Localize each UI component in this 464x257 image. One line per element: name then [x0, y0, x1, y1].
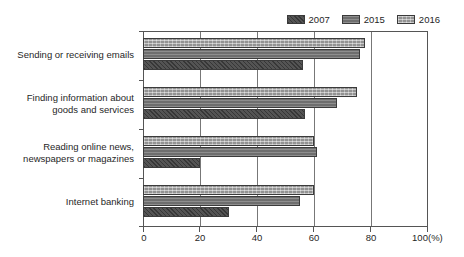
- legend-swatch-icon-2007: [287, 15, 305, 24]
- y-axis-ticks: [139, 31, 144, 227]
- legend-swatch-icon-2016: [397, 15, 415, 24]
- category-label-online-news-line2: newspapers or magazines: [0, 153, 134, 165]
- legend-item-2016: 2016: [397, 15, 440, 25]
- bar-2007-finding-information: [143, 109, 305, 119]
- y-tick-2: [139, 129, 144, 130]
- legend-swatch-icon-2015: [342, 15, 360, 24]
- bar-2016-finding-information: [143, 87, 357, 97]
- x-axis-tick-labels: 0 20 40 60 80 100 (%): [0, 232, 464, 246]
- bar-rows: [143, 31, 428, 227]
- legend-label-2015: 2015: [364, 15, 385, 25]
- x-ticklabel-20: 20: [195, 232, 206, 243]
- bar-2015-finding-information: [143, 98, 337, 108]
- legend-label-2007: 2007: [309, 15, 330, 25]
- x-axis-unit-label: (%): [428, 232, 443, 243]
- category-label-emails-line1: Sending or receiving emails: [0, 49, 134, 61]
- category-axis-labels: Sending or receiving emails Finding info…: [0, 31, 139, 227]
- legend-item-2015: 2015: [342, 15, 385, 25]
- bar-2016-online-news: [143, 136, 314, 146]
- category-label-online-news: Reading online news, newspapers or magaz…: [0, 141, 134, 165]
- bar-chart-figure: 2007 2015 2016: [0, 0, 464, 257]
- x-ticklabel-60: 60: [309, 232, 320, 243]
- category-label-internet-banking: Internet banking: [0, 196, 134, 208]
- x-ticklabel-40: 40: [252, 232, 263, 243]
- bar-2007-online-news: [143, 158, 200, 168]
- bar-2016-emails: [143, 38, 365, 48]
- category-label-finding-information: Finding information about goods and serv…: [0, 92, 134, 116]
- x-ticklabel-0: 0: [141, 232, 146, 243]
- y-tick-3: [139, 178, 144, 179]
- bar-group-finding-information: [143, 80, 428, 129]
- bar-2016-internet-banking: [143, 185, 314, 195]
- category-label-finding-information-line1: Finding information about: [0, 92, 134, 104]
- x-ticklabel-80: 80: [366, 232, 377, 243]
- category-label-internet-banking-line1: Internet banking: [0, 196, 134, 208]
- cut-off-title-strip: [0, 0, 464, 7]
- bar-2015-online-news: [143, 147, 317, 157]
- category-label-online-news-line1: Reading online news,: [0, 141, 134, 153]
- chart-legend: 2007 2015 2016: [287, 15, 440, 25]
- x-ticklabel-100: 100: [412, 232, 428, 243]
- bar-2007-internet-banking: [143, 207, 229, 217]
- category-label-finding-information-line2: goods and services: [0, 104, 134, 116]
- bar-group-online-news: [143, 129, 428, 178]
- y-tick-0: [139, 31, 144, 32]
- bar-group-emails: [143, 31, 428, 80]
- bar-2015-emails: [143, 49, 360, 59]
- bar-2015-internet-banking: [143, 196, 300, 206]
- category-label-emails: Sending or receiving emails: [0, 49, 134, 61]
- bar-2007-emails: [143, 60, 303, 70]
- legend-item-2007: 2007: [287, 15, 330, 25]
- y-tick-1: [139, 80, 144, 81]
- legend-label-2016: 2016: [419, 15, 440, 25]
- bar-group-internet-banking: [143, 178, 428, 227]
